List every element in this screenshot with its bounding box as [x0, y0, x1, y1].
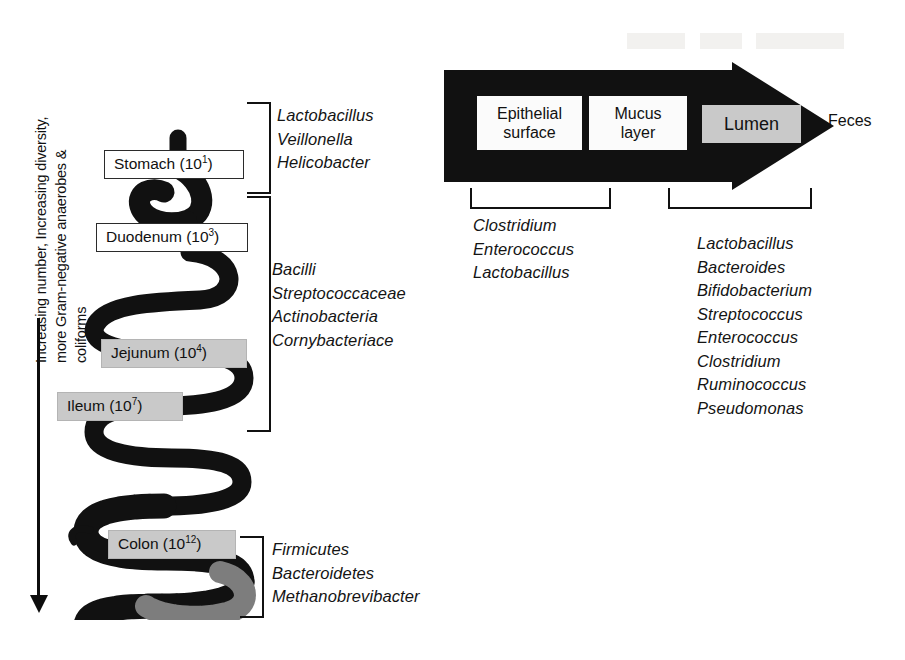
taxa-list-mucosa: Clostridium Enterococcus Lactobacillus: [473, 214, 574, 285]
scan-artifact: [627, 33, 685, 49]
organ-label-jejunum: Jejunum (104): [101, 339, 247, 368]
bracket-colon: [240, 536, 264, 618]
organ-label-colon: Colon (1012): [108, 530, 236, 559]
organ-label-stomach: Stomach (101): [104, 150, 244, 179]
organ-label-duodenum: Duodenum (103): [96, 223, 248, 252]
taxa-list-colon: Firmicutes Bacteroidetes Methanobrevibac…: [272, 538, 420, 609]
bracket-small-intestine: [247, 196, 271, 432]
scan-artifact: [700, 33, 742, 49]
bracket-mucosa: [470, 188, 611, 209]
gi-microbiota-figure: Increasing number, Increasing diversity,…: [0, 0, 905, 660]
bracket-lumen: [668, 188, 812, 209]
organ-label-ileum: Ileum (107): [57, 392, 183, 421]
feces-label: Feces: [828, 112, 872, 130]
zone-lumen: Lumen: [702, 105, 801, 143]
zone-epithelial-surface: Epithelial surface: [477, 96, 582, 150]
bracket-stomach: [247, 102, 271, 194]
scan-artifact: [756, 33, 844, 49]
taxa-list-stomach: Lactobacillus Veillonella Helicobacter: [277, 104, 374, 175]
zone-mucus-layer: Mucus layer: [589, 96, 687, 150]
taxa-list-small-intestine: Bacilli Streptococcaceae Actinobacteria …: [272, 258, 406, 352]
gradient-arrow-icon: [37, 318, 40, 596]
taxa-list-lumen: Lactobacillus Bacteroides Bifidobacteriu…: [697, 232, 812, 420]
